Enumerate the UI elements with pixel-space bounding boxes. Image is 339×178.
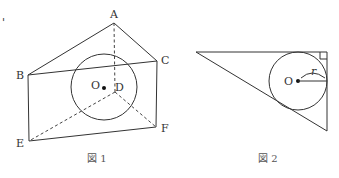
label-B: B [16, 69, 24, 82]
figure-2-caption: 図 2 [258, 153, 278, 164]
figure-1: A B C D E F O 図 1 [16, 8, 169, 164]
label-O: O [284, 75, 293, 88]
edge-EF [29, 127, 156, 141]
label-C: C [161, 54, 169, 67]
stray-mark: ' [2, 16, 5, 29]
label-O: O [91, 79, 100, 92]
edge-CF [156, 61, 157, 127]
center-point-O [102, 86, 106, 90]
label-A: A [109, 8, 119, 21]
right-angle-marker [320, 52, 327, 59]
right-triangle [196, 52, 327, 131]
edge-AC [114, 23, 157, 61]
label-r: r [311, 65, 317, 78]
hidden-edge-DE [29, 92, 115, 141]
label-D: D [115, 81, 124, 94]
label-F: F [161, 122, 169, 135]
edge-BE [28, 75, 29, 141]
label-E: E [16, 137, 24, 150]
figure-2: O r 図 2 [196, 52, 327, 164]
figure-1-caption: 図 1 [87, 153, 107, 164]
diagram-canvas: ' A B C D E F O 図 1 [0, 0, 339, 178]
